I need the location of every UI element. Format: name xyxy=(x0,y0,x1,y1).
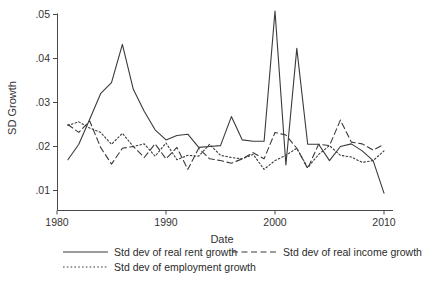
chart-legend: Std dev of real rent growthStd dev of re… xyxy=(63,246,422,273)
series-line-0 xyxy=(68,11,384,193)
x-tick-label: 2000 xyxy=(263,216,287,228)
legend-label-1: Std dev of real income growth xyxy=(283,246,422,258)
y-axis-title: SD Growth xyxy=(6,81,18,135)
x-axis-ticks: 1980199020002010 xyxy=(45,211,396,228)
series-lines xyxy=(68,11,384,193)
x-tick-label: 2010 xyxy=(372,216,396,228)
y-tick-label: .02 xyxy=(35,140,50,152)
x-tick-label: 1990 xyxy=(154,216,178,228)
y-tick-label: .04 xyxy=(35,52,50,64)
y-axis-ticks: .01.02.03.04.05 xyxy=(35,8,57,196)
legend-label-0: Std dev of real rent growth xyxy=(114,246,237,258)
series-line-1 xyxy=(68,120,384,169)
y-tick-label: .01 xyxy=(35,184,50,196)
y-tick-label: .05 xyxy=(35,8,50,20)
sd-growth-line-chart: .01.02.03.04.05 1980199020002010 SD Grow… xyxy=(0,0,427,283)
y-tick-label: .03 xyxy=(35,96,50,108)
x-axis-title: Date xyxy=(210,233,233,245)
legend-label-2: Std dev of employment growth xyxy=(114,261,256,273)
plot-area: .01.02.03.04.05 1980199020002010 xyxy=(35,8,395,227)
x-tick-label: 1980 xyxy=(45,216,69,228)
